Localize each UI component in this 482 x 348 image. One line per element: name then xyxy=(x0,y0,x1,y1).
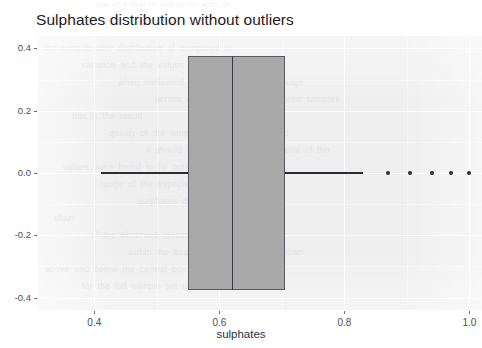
x-axis-tick-label: 0.4 xyxy=(87,317,101,328)
outlier-point xyxy=(449,171,453,175)
chart-title: Sulphates distribution without outliers xyxy=(36,11,294,29)
x-axis-tick-mark xyxy=(344,311,345,314)
plot-panel: the considerable distribution of compare… xyxy=(38,36,482,310)
chart-root: the of a that in and to for with on Sulp… xyxy=(0,0,482,348)
y-axis-tick-mark xyxy=(34,111,37,112)
whisker-high xyxy=(285,172,363,174)
y-axis-tick-label: 0.0 xyxy=(0,167,31,178)
median-line xyxy=(232,56,234,290)
y-axis-tick-label: -0.4 xyxy=(0,292,31,303)
x-axis-tick-label: 1.0 xyxy=(463,317,477,328)
outlier-point xyxy=(467,171,471,175)
outlier-point xyxy=(408,171,412,175)
y-axis-tick-mark xyxy=(34,173,37,174)
y-axis-tick-mark xyxy=(34,298,37,299)
outlier-point xyxy=(430,171,434,175)
y-axis-tick-label: 0.4 xyxy=(0,42,31,53)
x-axis-tick-mark xyxy=(94,311,95,314)
x-axis-title: sulphates xyxy=(0,328,482,340)
x-axis-tick-mark xyxy=(219,311,220,314)
x-axis-tick-label: 0.8 xyxy=(337,317,351,328)
box-iqr xyxy=(188,56,285,290)
y-axis-tick-mark xyxy=(34,48,37,49)
whisker-low xyxy=(101,172,189,174)
gridline-horizontal xyxy=(38,298,482,299)
x-axis-tick-label: 0.6 xyxy=(212,317,226,328)
y-axis-tick-mark xyxy=(34,235,37,236)
y-axis-tick-label: 0.2 xyxy=(0,105,31,116)
outlier-point xyxy=(386,171,390,175)
x-axis-tick-mark xyxy=(469,311,470,314)
gridline-vertical xyxy=(94,36,95,310)
y-axis-tick-label: -0.2 xyxy=(0,229,31,240)
gridline-horizontal xyxy=(38,48,482,49)
